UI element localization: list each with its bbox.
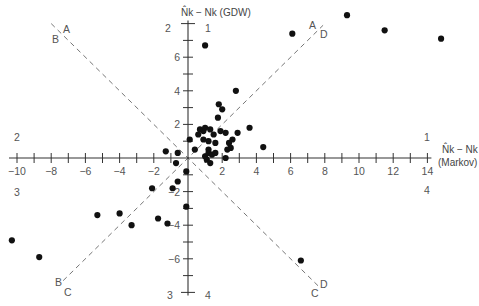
data-point-38 bbox=[223, 155, 229, 161]
data-point-23 bbox=[205, 138, 211, 144]
x-tick-label: 4 bbox=[253, 165, 259, 177]
data-point-35 bbox=[212, 150, 218, 156]
data-point-25 bbox=[212, 140, 218, 146]
y-tick-label: 2 bbox=[174, 118, 180, 130]
data-point-51 bbox=[36, 254, 42, 260]
data-point-40 bbox=[183, 168, 189, 174]
x-ticks: −10−8−6−4−22468101214 bbox=[8, 153, 433, 177]
line-y-equals-minus-x bbox=[51, 24, 319, 288]
x-tick-label: 2 bbox=[219, 165, 225, 177]
y-tick-label: 4 bbox=[174, 85, 180, 97]
data-point-0 bbox=[202, 42, 208, 48]
quadrant-label-4-right: 4 bbox=[424, 184, 430, 196]
x-axis-title-line1: N̂k − Nk bbox=[442, 142, 479, 155]
data-point-44 bbox=[183, 204, 189, 210]
x-tick-label: −10 bbox=[8, 165, 26, 177]
data-point-52 bbox=[298, 257, 304, 263]
line-label-b-bottom-left: B bbox=[55, 276, 62, 288]
scatter-chart: −10−8−6−4−22468101214 642−2−4−6 N̂k − Nk… bbox=[0, 0, 479, 306]
data-point-9 bbox=[246, 125, 252, 131]
quadrant-label-2-left: 2 bbox=[14, 131, 20, 143]
quadrant-label-3-bottom: 3 bbox=[167, 289, 173, 301]
data-point-49 bbox=[164, 220, 170, 226]
quadrant-label-1-top: 1 bbox=[205, 22, 211, 34]
data-point-1 bbox=[289, 31, 295, 37]
data-point-48 bbox=[155, 215, 161, 221]
x-tick-label: −4 bbox=[114, 165, 126, 177]
line-label-a-top-right: A bbox=[309, 19, 316, 31]
y-tick-label: 6 bbox=[174, 51, 180, 63]
x-tick-label: −8 bbox=[45, 165, 57, 177]
data-point-50 bbox=[9, 237, 15, 243]
data-point-45 bbox=[94, 212, 100, 218]
data-point-11 bbox=[234, 130, 240, 136]
x-tick-label: 10 bbox=[353, 165, 365, 177]
reference-lines bbox=[51, 24, 323, 288]
data-point-8 bbox=[215, 115, 221, 121]
data-point-21 bbox=[207, 126, 213, 132]
data-point-14 bbox=[187, 136, 193, 142]
quadrant-label-3-left: 3 bbox=[14, 186, 20, 198]
x-tick-label: 12 bbox=[387, 165, 399, 177]
data-point-37 bbox=[207, 160, 213, 166]
data-point-15 bbox=[163, 148, 169, 154]
x-tick-label: 14 bbox=[422, 165, 434, 177]
data-point-10 bbox=[260, 144, 266, 150]
data-point-24 bbox=[211, 131, 217, 137]
y-tick-label: −6 bbox=[168, 253, 180, 265]
x-tick-label: −2 bbox=[148, 165, 160, 177]
x-tick-label: −6 bbox=[79, 165, 91, 177]
data-point-7 bbox=[219, 106, 225, 112]
line-label-d-top-right: D bbox=[320, 28, 328, 40]
line-label-b-top-left: B bbox=[52, 33, 59, 45]
x-tick-label: 6 bbox=[288, 165, 294, 177]
x-tick-label: 8 bbox=[322, 165, 328, 177]
data-point-5 bbox=[233, 88, 239, 94]
data-points bbox=[9, 12, 444, 263]
data-point-47 bbox=[128, 222, 134, 228]
data-point-6 bbox=[216, 101, 222, 107]
data-point-29 bbox=[224, 147, 230, 153]
line-y-equals-x bbox=[63, 25, 323, 280]
data-point-26 bbox=[217, 128, 223, 134]
line-label-d-bottom-right: D bbox=[320, 278, 328, 290]
quadrant-label-2-top: 2 bbox=[165, 22, 171, 34]
line-label-c-bottom-right: C bbox=[311, 287, 319, 299]
line-label-a-top-left: A bbox=[63, 23, 70, 35]
quadrant-label-4-bottom: 4 bbox=[205, 289, 211, 301]
line-label-c-bottom-left: C bbox=[64, 286, 72, 298]
y-axis-title: N̂k − Nk (GDW) bbox=[181, 5, 251, 18]
data-point-43 bbox=[149, 185, 155, 191]
axes bbox=[9, 21, 431, 296]
data-point-46 bbox=[117, 210, 123, 216]
quadrant-label-1-right: 1 bbox=[424, 131, 430, 143]
data-point-3 bbox=[382, 27, 388, 33]
data-point-30 bbox=[192, 147, 198, 153]
data-point-2 bbox=[344, 12, 350, 18]
data-point-4 bbox=[438, 36, 444, 42]
data-point-42 bbox=[170, 185, 176, 191]
data-point-16 bbox=[175, 150, 181, 156]
x-axis-title-line2: (Markov) bbox=[438, 157, 477, 168]
data-point-39 bbox=[173, 160, 179, 166]
data-point-41 bbox=[175, 178, 181, 184]
chart-labels: N̂k − Nk (GDW) N̂k − Nk (Markov) 1 2 3 4… bbox=[14, 5, 479, 301]
